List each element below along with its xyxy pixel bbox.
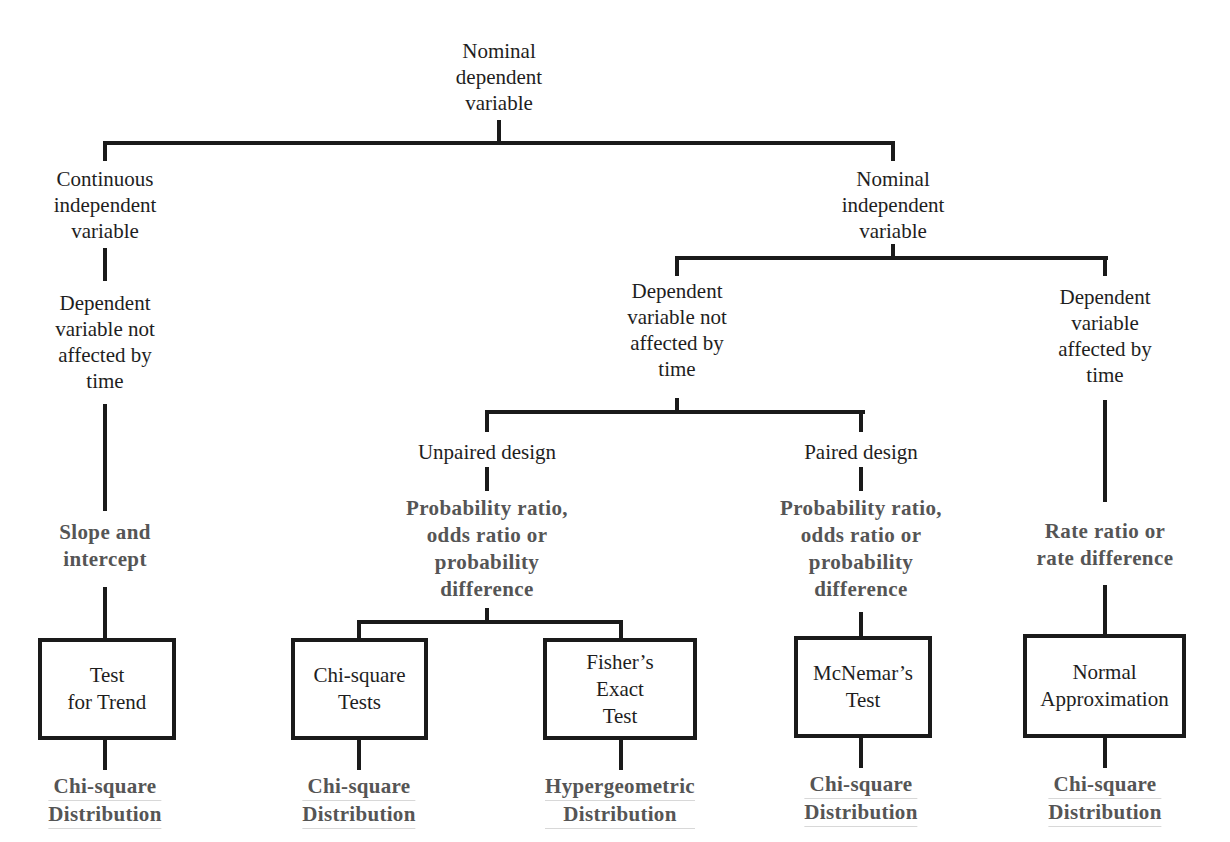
node-line: Probability ratio, [406,495,568,522]
node-line: Distribution [48,801,161,829]
node-line: odds ratio or [406,522,568,549]
connector [485,467,489,491]
node-line: Chi-square [1048,771,1161,799]
node-line: variable not [55,316,155,342]
node-line: Fisher’s [586,649,653,676]
connector [891,141,895,161]
node-line: probability [780,549,942,576]
node-dependent-affected-by-time: Dependent variable affected by time [1058,284,1151,388]
node-nominal-independent-variable: Nominal independent variable [842,166,945,244]
distribution-chi-square-4: Chi-square Distribution [1048,771,1161,827]
node-line: difference [780,576,942,603]
node-line: independent [842,192,945,218]
node-line: Slope and [59,519,151,546]
node-line: variable [1058,310,1151,336]
node-line: Dependent [1058,284,1151,310]
node-line: Nominal [456,38,542,64]
node-line: affected by [55,342,155,368]
measure-probability-ratio-paired: Probability ratio, odds ratio or probabi… [780,495,942,603]
connector [619,620,623,640]
root-node-nominal-dependent-variable: Nominal dependent variable [456,38,542,116]
node-line: Dependent [627,278,727,304]
connector [485,410,865,414]
connector [1103,585,1107,638]
connector [675,256,1108,260]
node-line: variable [842,218,945,244]
measure-rate-ratio: Rate ratio or rate difference [1037,518,1174,572]
node-line: variable [54,218,157,244]
node-line: for Trend [68,689,147,716]
node-line: Normal [1040,659,1168,686]
connector [485,410,489,432]
node-line: Continuous [54,166,157,192]
node-line: independent [54,192,157,218]
node-line: Distribution [804,799,917,827]
measure-probability-ratio-unpaired: Probability ratio, odds ratio or probabi… [406,495,568,603]
node-dependent-not-affected-by-time-middle: Dependent variable not affected by time [627,278,727,382]
connector [859,410,863,432]
connector [357,620,623,624]
connector [1103,738,1107,768]
test-box-normal-approximation: Normal Approximation [1023,634,1186,738]
distribution-chi-square-3: Chi-square Distribution [804,771,917,827]
node-line: difference [406,576,568,603]
test-box-mcnemars-test: McNemar’s Test [794,636,932,738]
connector [103,587,107,642]
node-line: Distribution [1048,799,1161,827]
node-line: Chi-square [48,773,161,801]
connector [619,740,623,770]
node-line: variable [456,90,542,116]
node-line: dependent [456,64,542,90]
node-line: intercept [59,546,151,573]
node-line: Approximation [1040,686,1168,713]
node-line: Unpaired design [418,439,556,465]
connector [103,141,895,145]
node-line: Chi-square [302,773,415,801]
test-box-fishers-exact-test: Fisher’s Exact Test [543,638,697,740]
node-line: Paired design [804,439,918,465]
node-line: Probability ratio, [780,495,942,522]
node-line: odds ratio or [780,522,942,549]
node-line: Tests [313,689,405,716]
node-line: Exact [586,676,653,703]
node-line: Hypergeometric [545,773,695,801]
connector [103,404,107,511]
connector [357,740,361,770]
connector [103,248,107,281]
node-paired-design: Paired design [804,439,918,465]
node-continuous-independent-variable: Continuous independent variable [54,166,157,244]
connector [103,141,107,161]
node-unpaired-design: Unpaired design [418,439,556,465]
node-line: Test [813,687,913,714]
node-line: McNemar’s [813,660,913,687]
node-dependent-not-affected-by-time-left: Dependent variable not affected by time [55,290,155,394]
measure-slope-and-intercept: Slope and intercept [59,519,151,573]
connector [859,467,863,491]
test-box-chi-square-tests: Chi-square Tests [291,638,428,740]
connector [859,738,863,768]
node-line: Chi-square [313,662,405,689]
node-line: Dependent [55,290,155,316]
node-line: Rate ratio or [1037,518,1174,545]
distribution-chi-square-1: Chi-square Distribution [48,773,161,829]
connector [675,256,679,276]
distribution-hypergeometric: Hypergeometric Distribution [545,773,695,829]
node-line: rate difference [1037,545,1174,572]
test-box-test-for-trend: Test for Trend [38,638,176,740]
node-line: Test [68,662,147,689]
node-line: Nominal [842,166,945,192]
connector [357,620,361,640]
connector [1103,400,1107,502]
node-line: time [1058,362,1151,388]
node-line: Distribution [545,801,695,829]
node-line: Test [586,703,653,730]
node-line: probability [406,549,568,576]
connector [103,740,107,770]
connector [1103,256,1107,276]
node-line: variable not [627,304,727,330]
node-line: Chi-square [804,771,917,799]
node-line: affected by [627,330,727,356]
node-line: time [55,368,155,394]
distribution-chi-square-2: Chi-square Distribution [302,773,415,829]
node-line: time [627,356,727,382]
